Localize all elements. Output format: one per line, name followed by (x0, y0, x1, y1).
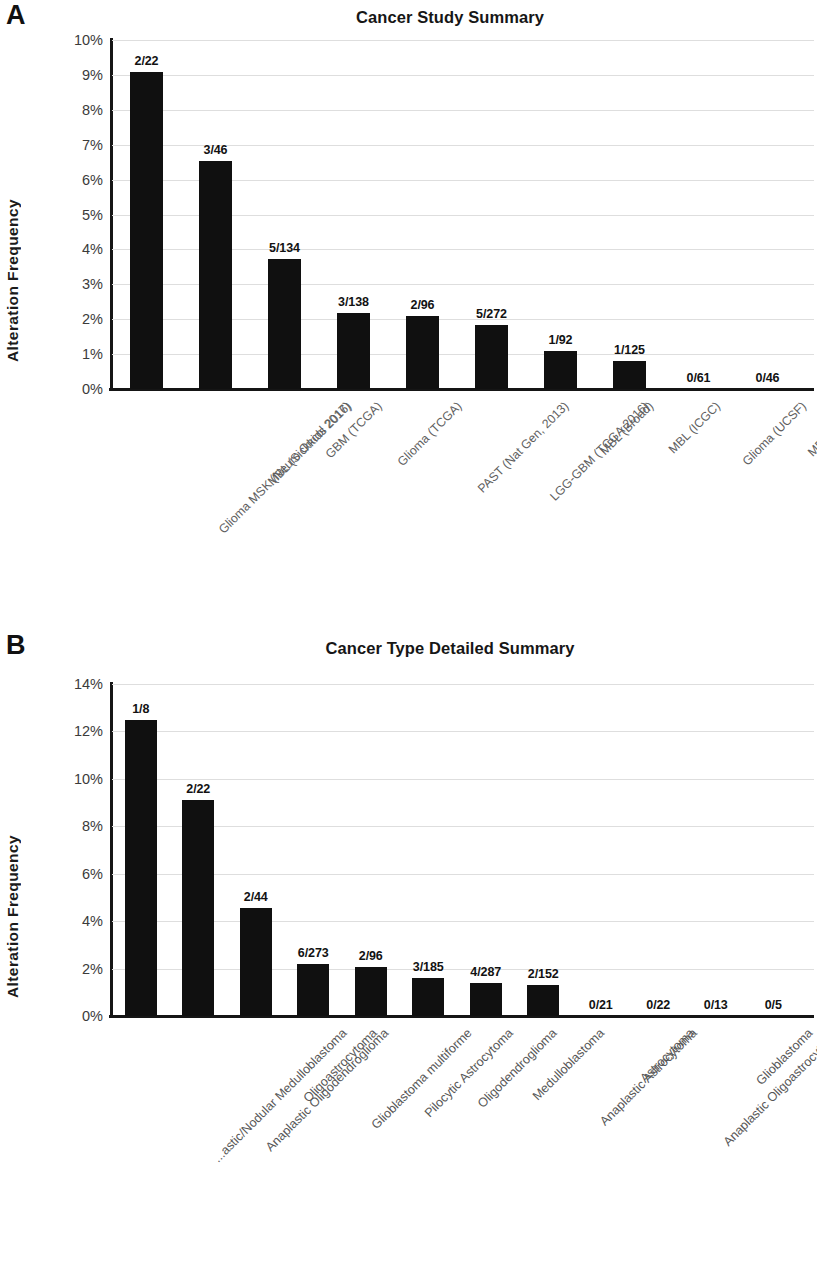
bar-value-label: 5/134 (269, 241, 300, 255)
bar-value-label: 5/272 (476, 307, 507, 321)
y-axis-tick-label: 8% (82, 818, 103, 834)
y-axis-tick-label: 8% (82, 102, 103, 118)
bar-value-label: 3/185 (413, 960, 444, 974)
y-axis-tick-label: 2% (82, 311, 103, 327)
bar[interactable] (130, 72, 163, 389)
bar[interactable] (240, 908, 272, 1016)
gridline (112, 684, 814, 685)
bar-value-label: 2/22 (186, 782, 210, 796)
panel-b: B Cancer Type Detailed Summary Alteratio… (0, 628, 817, 1268)
gridline (112, 40, 814, 41)
bar-value-label: 2/152 (528, 967, 559, 981)
x-axis-tick-label: PAST (Nat Gen, 2013) (474, 399, 571, 496)
gridline (112, 110, 814, 111)
y-axis-tick-label: 4% (82, 241, 103, 257)
y-axis-tick-label: 2% (82, 961, 103, 977)
bar-value-label: 6/273 (298, 946, 329, 960)
bar-value-label: 0/21 (589, 998, 613, 1012)
y-axis-tick-label: 0% (82, 381, 103, 397)
bar-value-label: 2/96 (359, 949, 383, 963)
panel-a-letter: A (6, 2, 26, 29)
y-axis-tick-label: 3% (82, 276, 103, 292)
bar-value-label: 3/138 (338, 295, 369, 309)
y-axis-tick-label: 6% (82, 172, 103, 188)
panel-b-letter: B (6, 632, 26, 659)
bar-value-label: 0/13 (704, 998, 728, 1012)
y-axis-tick-label: 9% (82, 67, 103, 83)
x-axis-tick-label: Glioma (UCSF) (739, 399, 808, 468)
y-axis-tick-label: 0% (82, 1008, 103, 1024)
bar-value-label: 0/46 (756, 371, 780, 385)
x-axis-tick-label: MBL (ICGC) (665, 399, 722, 456)
bar[interactable] (268, 259, 301, 389)
y-axis-tick-label: 6% (82, 866, 103, 882)
panel-a-plot-area: 0%1%2%3%4%5%6%7%8%9%10% 2/223/465/1343/1… (112, 40, 802, 389)
y-axis-tick-label: 4% (82, 913, 103, 929)
panel-a-y-axis-label: Alteration Frequency (4, 104, 22, 362)
gridline (112, 921, 814, 922)
bar[interactable] (125, 720, 157, 1016)
y-axis-tick-label: 7% (82, 137, 103, 153)
gridline (112, 75, 814, 76)
bar[interactable] (199, 161, 232, 389)
y-axis-tick-label: 10% (74, 771, 103, 787)
bar[interactable] (406, 316, 439, 389)
bar[interactable] (297, 964, 329, 1016)
bar-value-label: 1/92 (549, 333, 573, 347)
bar[interactable] (544, 351, 577, 389)
y-axis-tick-label: 12% (74, 723, 103, 739)
bar-value-label: 0/5 (765, 998, 782, 1012)
bar-value-label: 4/287 (470, 965, 501, 979)
gridline (112, 826, 814, 827)
panel-a: A Cancer Study Summary Alteration Freque… (0, 0, 817, 628)
bar[interactable] (182, 800, 214, 1016)
bar[interactable] (475, 325, 508, 389)
x-axis-tick-label: MBL (Broad) (597, 399, 656, 458)
y-axis-tick-label: 5% (82, 207, 103, 223)
panel-a-title: Cancer Study Summary (100, 8, 800, 27)
panel-b-y-axis-label: Alteration Frequency (4, 726, 22, 998)
bar[interactable] (355, 967, 387, 1016)
y-axis-tick-label: 14% (74, 676, 103, 692)
panel-b-title: Cancer Type Detailed Summary (100, 639, 800, 658)
x-axis-tick-label: Astrocytoma (637, 1026, 696, 1085)
bar[interactable] (470, 983, 502, 1016)
bar-value-label: 0/22 (646, 998, 670, 1012)
bar-value-label: 2/44 (244, 890, 268, 904)
bar-value-label: 1/8 (132, 702, 149, 716)
gridline (112, 874, 814, 875)
bar-value-label: 1/125 (614, 343, 645, 357)
bar-value-label: 2/96 (411, 298, 435, 312)
bar-value-label: 3/46 (204, 143, 228, 157)
gridline (112, 779, 814, 780)
bar[interactable] (527, 985, 559, 1016)
bar-value-label: 2/22 (135, 54, 159, 68)
y-axis-tick-label: 10% (74, 32, 103, 48)
bar[interactable] (613, 361, 646, 389)
x-axis-tick-label: Oligodendroglioma (475, 1026, 560, 1111)
x-axis-tick-label: Glioma (TCGA) (394, 399, 464, 469)
gridline (112, 731, 814, 732)
bar[interactable] (412, 978, 444, 1016)
gridline (112, 969, 814, 970)
panel-b-x-axis-line (109, 1015, 814, 1018)
panel-b-plot-area: 0%2%4%6%8%10%12%14% 1/82/222/446/2732/96… (112, 684, 802, 1016)
bar[interactable] (337, 313, 370, 389)
bar-value-label: 0/61 (687, 371, 711, 385)
y-axis-tick-label: 1% (82, 346, 103, 362)
